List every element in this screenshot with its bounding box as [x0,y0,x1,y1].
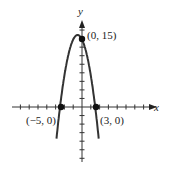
point-vertex [79,36,85,42]
parabola-curve [57,35,99,139]
point-root-right [93,104,99,110]
parabola-graph: (0, 15) (−5, 0) (3, 0) x y [0,0,169,169]
label-root-right: (3, 0) [100,114,124,127]
y-axis-label: y [77,5,83,17]
point-root-left [58,104,64,110]
x-axis-label: x [153,101,159,113]
label-vertex: (0, 15) [87,29,117,42]
label-root-left: (−5, 0) [26,114,56,127]
